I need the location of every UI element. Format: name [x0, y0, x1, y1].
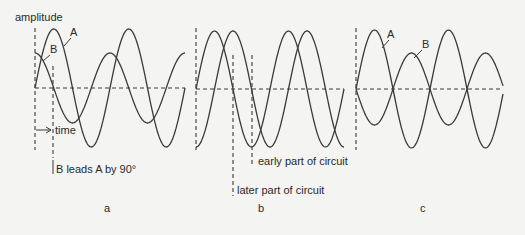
- panel-b-caption: b: [258, 202, 264, 214]
- panel-a-wave-A-label: A: [70, 26, 78, 38]
- panel-a-label-B-leader: [43, 55, 50, 61]
- panel-a-annotation: B leads A by 90°: [56, 163, 136, 175]
- panel-c-wave-A-label: A: [387, 28, 395, 40]
- panel-c: A B c: [356, 28, 503, 214]
- time-label: time: [55, 124, 76, 136]
- panel-c-caption: c: [420, 202, 426, 214]
- panel-a-label-A-leader: [64, 38, 71, 46]
- time-arrow-icon: [36, 127, 51, 133]
- panel-a-caption: a: [104, 202, 111, 214]
- panel-b: early part of circuit later part of circ…: [196, 28, 348, 214]
- panel-a: time A B B leads A by 90° a: [35, 26, 185, 214]
- panel-c-wave-B-label: B: [422, 38, 429, 50]
- phase-diagram: amplitude time A B B leads A by 90° a ea…: [0, 0, 525, 235]
- amplitude-axis-label: amplitude: [15, 11, 63, 23]
- panel-a-wave-B-label: B: [50, 43, 57, 55]
- panel-b-early-annotation: early part of circuit: [258, 155, 348, 167]
- panel-b-later-annotation: later part of circuit: [237, 184, 324, 196]
